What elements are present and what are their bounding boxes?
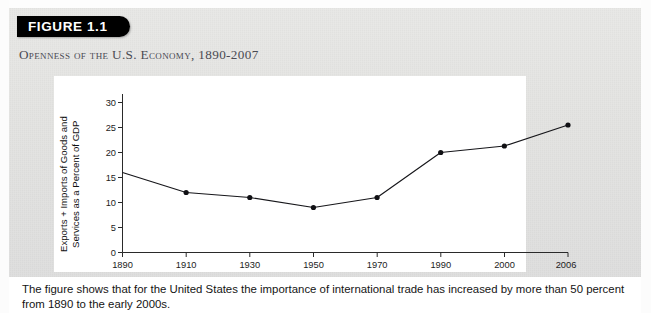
- y-axis-title-line-2: Services as a Percent of GDP: [70, 121, 81, 248]
- figure-title: Openness of the U.S. Economy, 1890-2007: [19, 47, 259, 63]
- page-right-margin: [641, 0, 651, 313]
- page-top-margin: [0, 0, 651, 8]
- x-tick-label: 1950: [303, 260, 324, 270]
- chart-svg: Exports + Imports of Goods and Services …: [54, 76, 584, 276]
- y-axis-tick-labels: 30 25 20 15 10 5 0: [106, 98, 116, 258]
- data-point-marker: [438, 150, 443, 155]
- x-tick-label: 1970: [367, 260, 388, 270]
- x-tick-label: 1930: [239, 260, 260, 270]
- y-axis-title-line-1: Exports + Imports of Goods and: [58, 116, 69, 252]
- data-point-marker: [247, 195, 252, 200]
- y-axis-title: Exports + Imports of Goods and Services …: [58, 116, 81, 252]
- data-point-marker: [502, 143, 507, 148]
- x-tick-label: 1890: [112, 260, 133, 270]
- data-point-marker: [374, 195, 379, 200]
- data-point-marker: [184, 190, 189, 195]
- x-tick-label: 2006: [556, 260, 577, 270]
- caption-line-2: from 1890 to the early 2000s.: [22, 297, 631, 312]
- x-axis: [123, 253, 569, 258]
- data-point-marker: [311, 205, 316, 210]
- y-tick-label: 15: [106, 173, 116, 183]
- figure-number-label: FIGURE 1.1: [28, 19, 108, 34]
- data-series-line: [123, 125, 569, 208]
- y-tick-label: 30: [106, 98, 116, 108]
- line-chart: Exports + Imports of Goods and Services …: [54, 76, 584, 276]
- data-point-marker: [565, 122, 570, 127]
- page-left-margin: [0, 0, 9, 313]
- caption-line-1: The figure shows that for the United Sta…: [22, 282, 631, 297]
- x-axis-tick-labels: 1890 1910 1930 1950 1970 1990 2000 2006: [112, 260, 576, 270]
- x-tick-label: 2000: [494, 260, 515, 270]
- y-tick-label: 0: [111, 248, 116, 258]
- x-tick-label: 1990: [430, 260, 451, 270]
- figure-caption: The figure shows that for the United Sta…: [9, 277, 641, 313]
- y-tick-label: 5: [111, 223, 116, 233]
- x-tick-label: 1910: [176, 260, 197, 270]
- y-tick-label: 25: [106, 123, 116, 133]
- figure-container: FIGURE 1.1 Openness of the U.S. Economy,…: [0, 0, 651, 313]
- figure-number-banner: FIGURE 1.1: [17, 16, 130, 37]
- y-axis: [118, 94, 123, 253]
- y-tick-label: 10: [106, 198, 116, 208]
- y-tick-label: 20: [106, 148, 116, 158]
